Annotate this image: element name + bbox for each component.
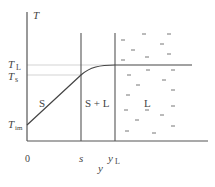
temperature-curve [27, 65, 192, 125]
x-axis-label: y [97, 162, 103, 174]
initial-temp-label: T [8, 118, 15, 130]
solid-front-label: s [79, 152, 83, 164]
solidus-temp-sub: s [15, 75, 18, 84]
liquid-front-label: y [107, 152, 113, 164]
liquid-front-sub: L [115, 157, 120, 166]
initial-temp-sub: im [15, 124, 23, 132]
y-axis-label: T [33, 9, 40, 21]
liquidus-temp-sub: L [16, 63, 21, 72]
region-liquid-label: L [144, 97, 151, 109]
liquid-region-dashes [121, 34, 175, 133]
region-mushy-label: S + L [85, 97, 110, 109]
temperature-profile-diagram: T y 0 T L T s T im s y L S S + L L [0, 0, 215, 187]
origin-label: 0 [25, 153, 30, 164]
region-solid-label: S [39, 97, 45, 109]
solidus-temp-label: T [8, 70, 15, 82]
liquidus-temp-label: T [8, 58, 15, 70]
